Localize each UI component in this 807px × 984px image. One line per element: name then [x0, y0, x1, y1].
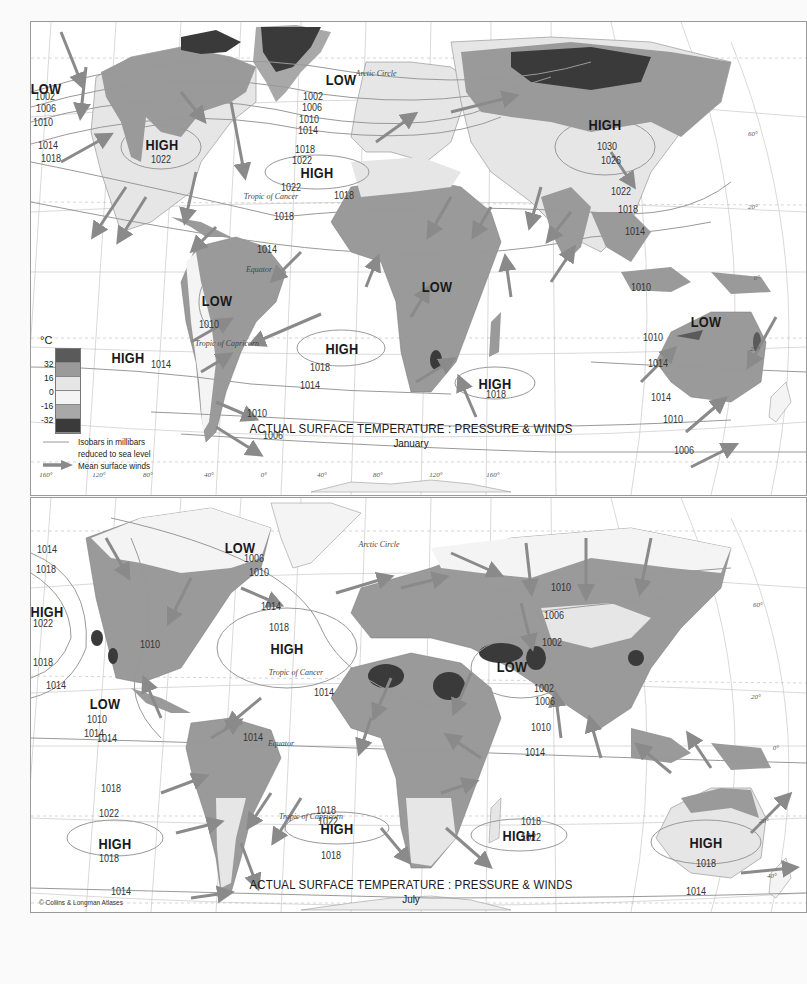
- isobar-value-label: 1018: [36, 565, 56, 575]
- isobar-value-label: 1010: [299, 115, 319, 125]
- coordinate-tick-label: 0°: [261, 472, 267, 479]
- isobar-value-label: 1018: [486, 390, 506, 400]
- isobar-value-label: 1022: [521, 833, 541, 843]
- isobar-value-label: 1002: [534, 684, 554, 694]
- coordinate-tick-label: 160°: [39, 472, 52, 479]
- swatch-16-32: [56, 363, 80, 377]
- isobar-key-line2: reduced to sea level: [78, 449, 151, 459]
- isobar-value-label: 1006: [244, 554, 264, 564]
- pressure-center-label: HIGH: [326, 341, 359, 356]
- coordinate-tick-label: 80°: [373, 472, 383, 479]
- pressure-center-label: LOW: [326, 72, 357, 87]
- swatch-0-16: [56, 377, 80, 391]
- isobar-value-label: 1010: [87, 715, 107, 725]
- coordinate-tick-label: 80°: [143, 472, 153, 479]
- pressure-center-label: LOW: [691, 314, 722, 329]
- parallel-label: Arctic Circle: [359, 541, 400, 549]
- parallel-label: Tropic of Cancer: [244, 193, 298, 201]
- scale-value: -16: [41, 400, 53, 411]
- isobar-value-label: 1014: [261, 602, 281, 612]
- isobar-value-label: 1010: [33, 118, 53, 128]
- legend-unit: °C: [40, 334, 52, 346]
- isobar-value-label: 1014: [525, 748, 545, 758]
- january-map: LOWHIGHLOWHIGHHIGHLOWLOWHIGHHIGHHIGHLOW1…: [30, 21, 807, 496]
- coordinate-tick-label: 40°: [204, 472, 214, 479]
- scale-value: 16: [44, 372, 54, 383]
- isobar-value-label: 1014: [314, 688, 334, 698]
- coordinate-tick-label: 60°: [753, 602, 763, 609]
- scale-value: 32: [44, 358, 54, 369]
- isobar-value-label: 1010: [631, 283, 651, 293]
- isobar-value-label: 1010: [663, 415, 683, 425]
- swatch-below-minus32: [56, 419, 80, 433]
- january-title: ACTUAL SURFACE TEMPERATURE : PRESSURE & …: [249, 422, 572, 435]
- coordinate-tick-label: 40°: [767, 873, 777, 880]
- isobar-value-label: 1002: [542, 638, 562, 648]
- july-subtitle: July: [402, 894, 420, 905]
- coordinate-tick-label: 60°: [748, 131, 758, 138]
- isobar-value-label: 1018: [33, 658, 53, 668]
- isobar-value-label: 1014: [651, 393, 671, 403]
- isobar-value-label: 1006: [535, 697, 555, 707]
- swatch-above-32: [56, 349, 80, 363]
- map-legend: °C 32 16 0 -16 -32 Isobars in millibars …: [31, 330, 211, 470]
- isobar-value-label: 1022: [99, 809, 119, 819]
- isobar-value-label: 1026: [601, 156, 621, 166]
- isobar-value-label: 1010: [643, 333, 663, 343]
- coordinate-tick-label: 20°: [748, 204, 758, 211]
- pressure-center-label: HIGH: [301, 165, 334, 180]
- coordinate-tick-label: 20°: [751, 694, 761, 701]
- swatch-minus32-minus16: [56, 405, 80, 419]
- isobar-value-label: 1022: [33, 619, 53, 629]
- coordinate-tick-label: 160°: [486, 472, 499, 479]
- isobar-value-label: 1010: [551, 583, 571, 593]
- july-map: LOWHIGHHIGHLOWLOWHIGHHIGHHIGHHIGH1014101…: [30, 497, 807, 913]
- isobar-key-line1: Isobars in millibars: [78, 437, 145, 447]
- isobar-value-label: 1022: [151, 155, 171, 165]
- isobar-value-label: 1018: [269, 623, 289, 633]
- pressure-center-label: LOW: [202, 293, 233, 308]
- january-subtitle: January: [393, 438, 428, 449]
- isobar-value-label: 1010: [531, 723, 551, 733]
- isobar-value-label: 1014: [648, 359, 668, 369]
- isobar-value-label: 1010: [199, 320, 219, 330]
- pressure-center-label: LOW: [90, 696, 121, 711]
- isobar-value-label: 1018: [274, 212, 294, 222]
- isobar-value-label: 1022: [292, 156, 312, 166]
- isobar-value-label: 1014: [243, 733, 263, 743]
- coordinate-tick-label: 0°: [773, 745, 779, 752]
- isobar-value-label: 1010: [247, 409, 267, 419]
- parallel-label: Tropic of Capricorn: [279, 813, 343, 821]
- isobar-value-label: 1022: [611, 187, 631, 197]
- isobar-value-label: 1018: [295, 145, 315, 155]
- isobar-value-label: 1010: [249, 568, 269, 578]
- temperature-scale: 32 16 0 -16 -32: [55, 348, 81, 434]
- parallel-label: Equator: [268, 740, 294, 748]
- isobar-value-label: 1018: [696, 859, 716, 869]
- scale-value: -32: [41, 414, 53, 425]
- isobar-value-label: 1006: [544, 611, 564, 621]
- coordinate-tick-label: 40°: [317, 472, 327, 479]
- isobar-value-label: 1018: [321, 851, 341, 861]
- isobar-value-label: 1018: [99, 854, 119, 864]
- pressure-center-label: HIGH: [99, 836, 132, 851]
- isobar-value-label: 1010: [140, 640, 160, 650]
- isobar-value-label: 1006: [674, 446, 694, 456]
- pressure-center-label: HIGH: [146, 137, 179, 152]
- pressure-center-label: HIGH: [271, 641, 304, 656]
- isobar-value-label: 1018: [334, 191, 354, 201]
- isobar-value-label: 1014: [97, 734, 117, 744]
- july-title: ACTUAL SURFACE TEMPERATURE : PRESSURE & …: [249, 878, 572, 891]
- isobar-value-label: 1014: [686, 887, 706, 897]
- isobar-value-label: 1014: [298, 126, 318, 136]
- pressure-center-label: HIGH: [589, 117, 622, 132]
- isobar-value-label: 1018: [310, 363, 330, 373]
- parallel-label: Equator: [246, 266, 272, 274]
- isobar-value-label: 1014: [257, 245, 277, 255]
- isobar-value-label: 1030: [597, 142, 617, 152]
- pressure-center-label: HIGH: [690, 835, 723, 850]
- swatch-minus16-0: [56, 391, 80, 405]
- parallel-label: Tropic of Cancer: [269, 669, 323, 677]
- isobar-value-label: 1014: [111, 887, 131, 897]
- coordinate-tick-label: 120°: [429, 472, 442, 479]
